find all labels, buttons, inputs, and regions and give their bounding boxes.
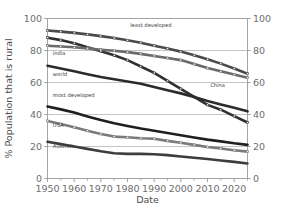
data-point-marker — [220, 70, 222, 72]
data-point-marker — [100, 49, 102, 51]
y-tick-label-left: 0 — [36, 173, 42, 184]
data-point-marker — [87, 33, 89, 35]
data-point-marker — [140, 42, 142, 44]
data-point-marker — [73, 46, 75, 48]
data-point-marker — [180, 59, 182, 61]
y-tick-label-right: 100 — [253, 13, 271, 24]
data-point-marker — [167, 140, 169, 142]
series-label-australia: Australia — [53, 143, 76, 149]
data-point-marker — [113, 54, 115, 56]
data-point-marker — [87, 47, 89, 49]
data-point-marker — [47, 37, 49, 39]
chart-figure: least developedChinaindiaworldmost devel… — [0, 0, 284, 209]
y-tick-label-right: 80 — [253, 45, 265, 56]
data-point-marker — [140, 137, 142, 139]
x-tick-label: 2010 — [195, 183, 219, 194]
chart-canvas: least developedChinaindiaworldmost devel… — [0, 0, 284, 209]
data-point-marker — [167, 48, 169, 50]
x-tick-label: 1990 — [142, 183, 166, 194]
data-point-marker — [127, 59, 129, 61]
series-label-most-developed: most developed — [53, 92, 95, 99]
data-point-marker — [233, 67, 235, 69]
y-tick-label-left: 40 — [30, 109, 42, 120]
data-point-marker — [233, 74, 235, 76]
data-point-marker — [220, 63, 222, 65]
data-point-marker — [73, 42, 75, 44]
data-point-marker — [100, 35, 102, 37]
data-point-marker — [100, 133, 102, 135]
data-point-marker — [220, 148, 222, 150]
y-tick-label-left: 60 — [30, 77, 42, 88]
x-axis-title: Date — [136, 194, 159, 205]
data-point-marker — [193, 144, 195, 146]
x-tick-label: 1960 — [62, 183, 86, 194]
data-point-marker — [153, 45, 155, 47]
x-tick-label: 1950 — [35, 183, 59, 194]
data-point-marker — [127, 51, 129, 53]
data-point-marker — [47, 120, 49, 122]
data-point-marker — [193, 63, 195, 65]
y-tick-label-left: 80 — [30, 45, 42, 56]
data-point-marker — [113, 37, 115, 39]
data-point-marker — [247, 73, 249, 75]
y-tick-label-left: 100 — [24, 13, 42, 24]
data-point-marker — [233, 149, 235, 151]
data-point-marker — [180, 88, 182, 90]
data-point-marker — [140, 66, 142, 68]
data-point-marker — [207, 67, 209, 69]
x-tick-label: 2020 — [222, 183, 246, 194]
y-tick-label-right: 40 — [253, 109, 265, 120]
series-label-usa: USA — [53, 122, 64, 128]
data-point-marker — [153, 72, 155, 74]
data-point-marker — [60, 39, 62, 41]
y-tick-label-right: 20 — [253, 141, 265, 152]
data-point-marker — [113, 136, 115, 138]
x-tick-label: 1970 — [89, 183, 113, 194]
data-point-marker — [193, 54, 195, 56]
data-point-marker — [247, 77, 249, 79]
data-point-marker — [207, 146, 209, 148]
y-tick-label-right: 0 — [253, 173, 259, 184]
data-point-marker — [87, 130, 89, 132]
x-tick-label: 1980 — [115, 183, 139, 194]
series-label-india: india — [53, 50, 66, 56]
data-point-marker — [127, 39, 129, 41]
data-point-marker — [207, 58, 209, 60]
data-point-marker — [180, 51, 182, 53]
y-tick-label-left: 20 — [30, 141, 42, 152]
data-point-marker — [113, 50, 115, 52]
data-point-marker — [233, 115, 235, 117]
data-point-marker — [73, 32, 75, 34]
data-point-marker — [47, 45, 49, 47]
y-axis-title: % Population that is rural — [3, 38, 14, 158]
data-point-marker — [247, 151, 249, 153]
data-point-marker — [153, 55, 155, 57]
series-label-world: world — [53, 71, 67, 77]
data-point-marker — [220, 109, 222, 111]
x-tick-label: 2000 — [169, 183, 193, 194]
data-point-marker — [167, 57, 169, 59]
data-point-marker — [140, 53, 142, 55]
data-point-marker — [180, 142, 182, 144]
figure-background — [0, 0, 284, 209]
series-label-least-developed: least developed — [130, 22, 171, 29]
data-point-marker — [207, 104, 209, 106]
series-label-china: China — [210, 82, 225, 88]
data-point-marker — [167, 80, 169, 82]
data-point-marker — [153, 138, 155, 140]
y-tick-label-right: 60 — [253, 77, 265, 88]
data-point-marker — [60, 31, 62, 33]
data-point-marker — [60, 46, 62, 48]
data-point-marker — [127, 136, 129, 138]
data-point-marker — [73, 126, 75, 128]
data-point-marker — [247, 122, 249, 124]
data-point-marker — [47, 30, 49, 32]
